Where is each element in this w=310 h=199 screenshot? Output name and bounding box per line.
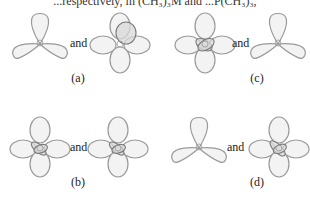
and-connector: and [70,36,87,51]
and-connector: and [70,140,87,155]
panel-label-d: (d) [242,175,272,190]
and-connector: and [227,140,244,155]
four-lobe-orbital-icon [175,12,235,74]
trefoil-orbital-icon [171,116,227,176]
trefoil-orbital-icon [12,12,68,72]
and-connector: and [232,36,249,51]
four-lobe-orbital-icon [249,116,309,178]
panel-label-b: (b) [63,175,93,190]
four-lobe-orbital-icon [88,116,148,178]
panel-d: and (d) [155,100,310,199]
panel-b: and (b) [0,100,155,199]
panel-a: and (a) [0,0,155,100]
trefoil-orbital-icon [250,12,306,72]
panel-c: and (c) [155,0,310,100]
panel-label-c: (c) [242,71,272,86]
panel-label-a: (a) [63,71,93,86]
four-lobe-orbital-icon [90,12,150,74]
four-lobe-orbital-icon [10,116,70,178]
